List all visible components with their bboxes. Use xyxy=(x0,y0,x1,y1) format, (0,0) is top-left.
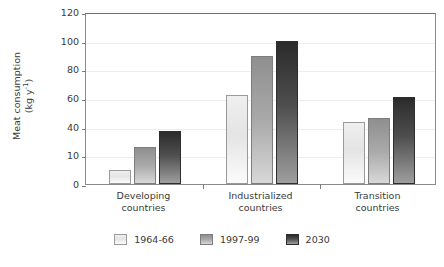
category-label-line2: countries xyxy=(85,202,202,214)
bar xyxy=(343,122,365,184)
group-separator-tick xyxy=(203,184,204,189)
y-axis-tick-label: 60 xyxy=(46,94,79,104)
bar-group xyxy=(320,14,437,184)
legend-label: 1997-99 xyxy=(220,234,260,245)
bar-groups xyxy=(86,14,435,184)
y-axis-tick-label: 120 xyxy=(46,8,79,18)
plot-area xyxy=(85,13,436,185)
category-label-line1: Developing xyxy=(85,190,202,202)
y-axis-tick-label: 10 xyxy=(46,151,79,161)
x-axis-category-label: Transitioncountries xyxy=(319,190,436,214)
category-label-line1: Transition xyxy=(319,190,436,202)
y-axis-title: Meat consumption (kg y-1) xyxy=(0,0,46,192)
category-label-line2: countries xyxy=(319,202,436,214)
legend-item: 2030 xyxy=(286,234,330,245)
legend-swatch xyxy=(286,234,299,245)
legend-label: 2030 xyxy=(306,234,330,245)
group-separator-tick xyxy=(320,184,321,189)
legend-label: 1964-66 xyxy=(134,234,174,245)
y-axis-unit-exponent: -1 xyxy=(22,82,30,89)
category-label-line1: Industrialized xyxy=(202,190,319,202)
y-axis-tick-label: 80 xyxy=(46,65,79,75)
bar xyxy=(134,147,156,184)
y-axis-title-line2: (kg y-1) xyxy=(23,52,35,140)
chart-legend: 1964-661997-992030 xyxy=(0,234,444,245)
y-axis-title-line1: Meat consumption xyxy=(11,52,22,140)
bar xyxy=(109,170,131,184)
y-axis-tick-label: 100 xyxy=(46,37,79,47)
y-axis-tick-label: 40 xyxy=(46,123,79,133)
meat-consumption-bar-chart: Meat consumption (kg y-1) 01040608010012… xyxy=(0,0,444,267)
bar xyxy=(226,95,248,184)
bar xyxy=(251,56,273,184)
category-label-line2: countries xyxy=(202,202,319,214)
x-axis-category-label: Industrializedcountries xyxy=(202,190,319,214)
bar xyxy=(368,118,390,184)
bar xyxy=(393,97,415,184)
y-axis-tick-labels: 010406080100120 xyxy=(46,0,79,192)
bar-group xyxy=(86,14,203,184)
x-axis-category-labels: DevelopingcountriesIndustrializedcountri… xyxy=(85,190,436,222)
legend-swatch xyxy=(200,234,213,245)
bar xyxy=(276,41,298,184)
x-axis-category-label: Developingcountries xyxy=(85,190,202,214)
legend-swatch xyxy=(114,234,127,245)
legend-item: 1964-66 xyxy=(114,234,174,245)
y-axis-tick-label: 0 xyxy=(46,180,79,190)
bar-group xyxy=(203,14,320,184)
bar xyxy=(159,131,181,184)
y-axis-tickmark xyxy=(82,186,86,187)
legend-item: 1997-99 xyxy=(200,234,260,245)
